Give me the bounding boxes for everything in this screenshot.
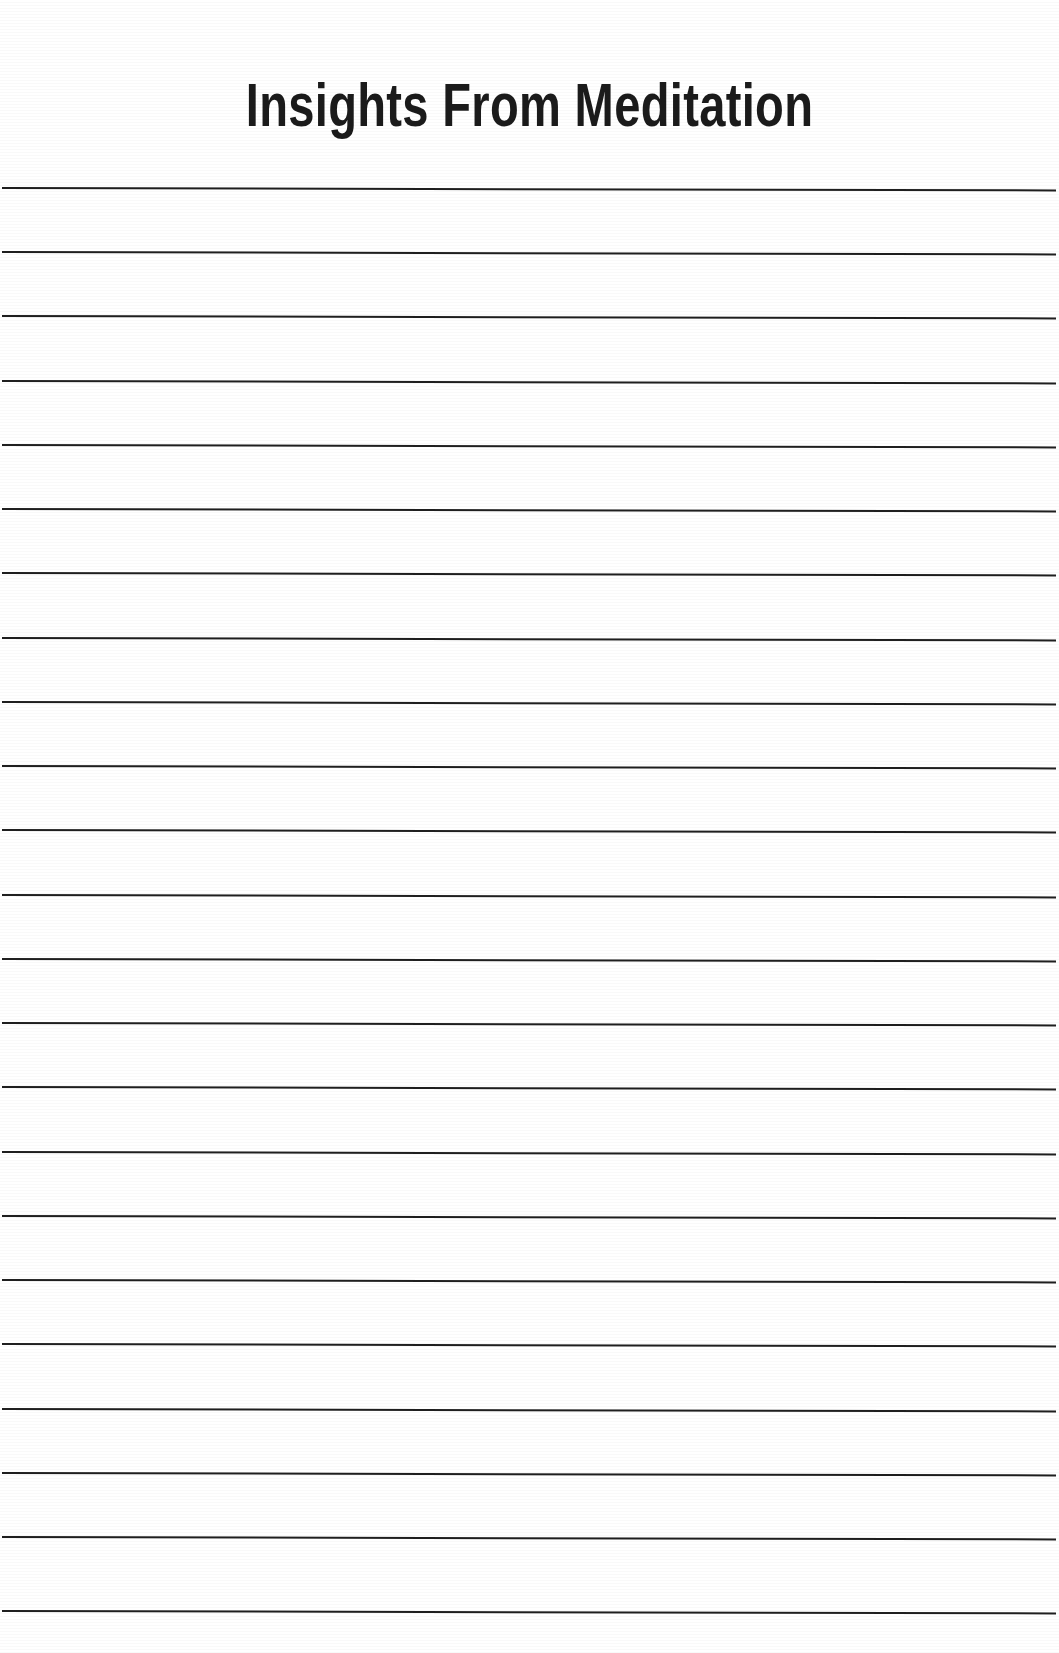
rule-line — [2, 315, 1056, 319]
rule-line — [2, 894, 1056, 898]
rule-line — [2, 1610, 1056, 1614]
ruled-line-area — [0, 0, 1059, 1653]
rule-line — [2, 1215, 1056, 1219]
rule-line — [2, 380, 1056, 384]
rule-line — [2, 251, 1056, 255]
rule-line — [2, 765, 1056, 769]
rule-line — [2, 187, 1056, 191]
rule-line — [2, 958, 1056, 962]
note-page: Insights From Meditation — [0, 0, 1059, 1653]
rule-line — [2, 1151, 1056, 1155]
rule-line — [2, 1536, 1056, 1540]
rule-line — [2, 701, 1056, 705]
rule-line — [2, 508, 1056, 512]
rule-line — [2, 444, 1056, 448]
rule-line — [2, 572, 1056, 576]
rule-line — [2, 1086, 1056, 1090]
rule-line — [2, 1343, 1056, 1347]
rule-line — [2, 1472, 1056, 1476]
rule-line — [2, 1022, 1056, 1026]
rule-line — [2, 829, 1056, 833]
rule-line — [2, 1279, 1056, 1283]
rule-line — [2, 1408, 1056, 1412]
rule-line — [2, 637, 1056, 641]
